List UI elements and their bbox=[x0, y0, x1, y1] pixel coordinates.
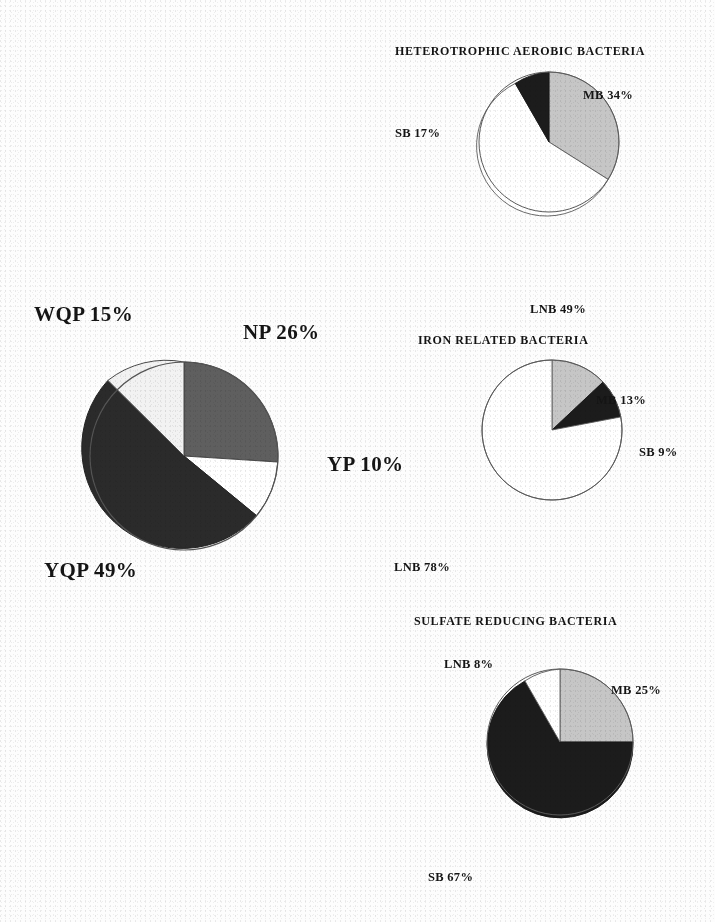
iron-label-sb: SB 9% bbox=[639, 445, 678, 460]
heterotrophic-chart-title: HETEROTROPHIC AEROBIC BACTERIA bbox=[395, 44, 645, 59]
iron-label-lnb: LNB 78% bbox=[394, 560, 450, 575]
main-label-wqp: WQP 15% bbox=[34, 302, 133, 327]
sulfate-label-sb: SB 67% bbox=[428, 870, 473, 885]
heterotrophic-label-lnb: LNB 49% bbox=[530, 302, 586, 317]
pie-slice-mb bbox=[560, 669, 633, 742]
sulfate-label-mb: MB 25% bbox=[611, 683, 661, 698]
pie-slice-np bbox=[184, 362, 278, 462]
iron-related-pie-chart bbox=[480, 358, 624, 502]
sulfate-reducing-figure: SULFATE REDUCING BACTERIA LNB 8% MB 25% … bbox=[380, 605, 715, 915]
heterotrophic-label-sb: SB 17% bbox=[395, 126, 440, 141]
heterotrophic-aerobic-figure: HETEROTROPHIC AEROBIC BACTERIA MB 34% SB… bbox=[380, 30, 715, 330]
heterotrophic-label-mb: MB 34% bbox=[583, 88, 633, 103]
iron-related-figure: IRON RELATED BACTERIA MB 13% SB 9% LNB 7… bbox=[380, 325, 715, 600]
main-pie-figure: WQP 15% NP 26% YP 10% YQP 49% bbox=[0, 280, 400, 610]
main-label-yqp: YQP 49% bbox=[44, 558, 137, 583]
sulfate-reducing-chart-title: SULFATE REDUCING BACTERIA bbox=[414, 614, 617, 629]
figure-page: WQP 15% NP 26% YP 10% YQP 49% HETEROTROP… bbox=[0, 0, 715, 922]
sulfate-label-lnb: LNB 8% bbox=[444, 657, 493, 672]
iron-label-mb: MB 13% bbox=[596, 393, 646, 408]
main-pie-chart bbox=[88, 360, 280, 552]
main-label-np: NP 26% bbox=[243, 320, 320, 345]
iron-related-chart-title: IRON RELATED BACTERIA bbox=[418, 333, 588, 348]
